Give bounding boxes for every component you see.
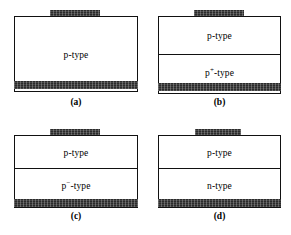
device-body-d: p-type n-type	[158, 135, 281, 208]
region-label-b-2: p+-type	[159, 69, 280, 79]
device-panel-b: p-type p+-type (b)	[158, 10, 281, 108]
region-label-b-1: p-type	[159, 32, 280, 42]
device-panel-a: p-type (a)	[14, 10, 138, 108]
bottom-metal-contact-icon	[14, 199, 138, 207]
region-label-a-1: p-type	[15, 51, 137, 61]
device-body-c: p-type p−-type	[14, 135, 138, 208]
bottom-metal-contact-icon	[14, 81, 138, 89]
panel-caption-a: (a)	[14, 98, 138, 108]
junction-divider-d	[159, 168, 280, 169]
bottom-metal-contact-icon	[158, 199, 281, 207]
junction-divider-b	[159, 54, 280, 55]
region-label-c-2: p−-type	[15, 182, 137, 192]
junction-divider-c	[15, 168, 137, 169]
panel-caption-c: (c)	[14, 212, 138, 222]
figure-canvas: p-type (a) p-type p+-type (b) p-type p−-…	[0, 0, 291, 235]
device-panel-d: p-type n-type (d)	[158, 129, 281, 225]
device-panel-c: p-type p−-type (c)	[14, 129, 138, 225]
region-label-c-1: p-type	[15, 149, 137, 159]
region-label-d-2: n-type	[159, 182, 280, 192]
region-label-d-1: p-type	[159, 149, 280, 159]
panel-caption-d: (d)	[158, 212, 281, 222]
bottom-metal-contact-icon	[158, 83, 281, 91]
panel-caption-b: (b)	[158, 98, 281, 108]
